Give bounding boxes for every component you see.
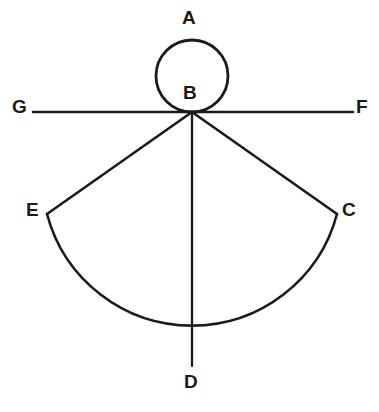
vertex-label-g: G [12,97,27,116]
vertex-label-f: F [356,97,368,116]
vertex-label-e: E [26,200,39,219]
figure-canvas [0,0,379,412]
segment-bc [192,112,337,214]
segment-be [47,112,192,214]
vertex-label-b: B [183,83,197,102]
vertex-label-a: A [182,8,196,27]
vertex-label-c: C [342,200,356,219]
geometry-figure: A B C D E F G [0,0,379,412]
vertex-label-d: D [184,372,198,391]
